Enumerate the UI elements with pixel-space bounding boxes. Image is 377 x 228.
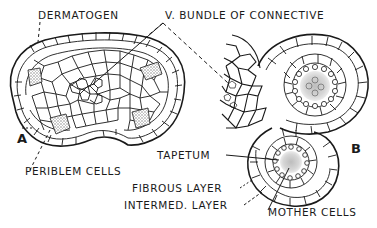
panel-b-upper-mother-cells xyxy=(300,71,330,101)
panel-label-b: B xyxy=(351,142,361,155)
label-intermed-layer: INTERMED. LAYER xyxy=(124,200,228,211)
panel-a-cells xyxy=(14,32,182,145)
label-tapetum: TAPETUM xyxy=(157,150,210,161)
panel-b-lower-mother-cells xyxy=(280,151,302,173)
label-periblem-cells: PERIBLEM CELLS xyxy=(25,166,121,177)
anther-diagram: DERMATOGEN V. BUNDLE OF CONNECTIVE PERIB… xyxy=(0,0,377,228)
label-dermatogen: DERMATOGEN xyxy=(38,10,119,21)
label-mother-cells: MOTHER CELLS xyxy=(268,207,356,218)
label-fibrous-layer: FIBROUS LAYER xyxy=(132,183,222,194)
label-vascular-bundle: V. BUNDLE OF CONNECTIVE xyxy=(165,10,324,21)
panel-label-a: A xyxy=(17,132,27,145)
